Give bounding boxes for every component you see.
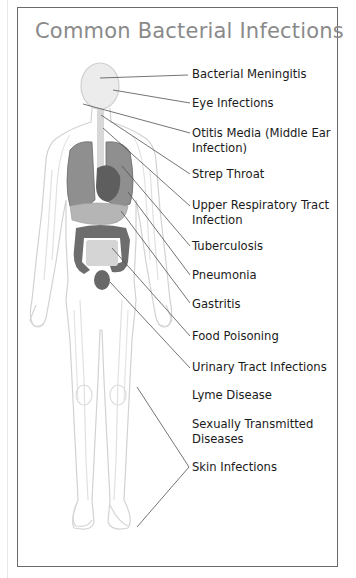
label-upper-respiratory: Upper Respiratory Tract Infection xyxy=(192,198,329,228)
small-intestine xyxy=(86,240,118,266)
label-pneumonia: Pneumonia xyxy=(192,268,257,283)
liver xyxy=(70,203,128,225)
trachea xyxy=(97,108,104,168)
label-sexually-transmitted-diseases: Sexually Transmitted Diseases xyxy=(192,417,313,447)
label-skin-infections: Skin Infections xyxy=(192,460,277,475)
leader-line-uti xyxy=(110,282,190,368)
label-strep-throat: Strep Throat xyxy=(192,167,264,182)
label-bacterial-meningitis: Bacterial Meningitis xyxy=(192,67,307,82)
label-otitis-media: Otitis Media (Middle Ear Infection) xyxy=(192,126,331,156)
leader-line-eye xyxy=(113,90,190,103)
label-line: Diseases xyxy=(192,432,313,447)
label-gastritis: Gastritis xyxy=(192,297,240,312)
leader-line-gastritis xyxy=(121,211,190,303)
label-lyme-disease: Lyme Disease xyxy=(192,388,272,403)
human-body-figure xyxy=(0,0,356,578)
label-food-poisoning: Food Poisoning xyxy=(192,329,279,344)
label-eye-infections: Eye Infections xyxy=(192,96,274,111)
label-line: Sexually Transmitted xyxy=(192,417,313,432)
leader-line-tuberculosis xyxy=(122,166,190,246)
label-urinary-tract-infections: Urinary Tract Infections xyxy=(192,360,327,375)
leader-line-skin xyxy=(137,387,189,527)
label-line: Infection xyxy=(192,213,329,228)
label-line: Otitis Media (Middle Ear xyxy=(192,126,331,141)
left-lung xyxy=(67,142,95,207)
leader-line-food-poisoning xyxy=(112,248,190,336)
label-line: Upper Respiratory Tract xyxy=(192,198,329,213)
label-line: Infection) xyxy=(192,141,331,156)
label-tuberculosis: Tuberculosis xyxy=(192,239,263,254)
bladder xyxy=(94,270,110,290)
